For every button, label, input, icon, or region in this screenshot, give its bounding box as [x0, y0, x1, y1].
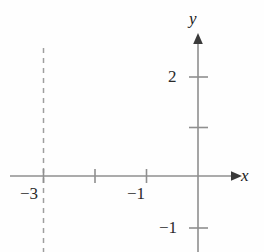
y-axis-arrow-icon	[193, 33, 203, 44]
x-axis-label: x	[241, 167, 249, 184]
plot-canvas	[0, 0, 264, 252]
y-tick-label--1: −1	[159, 219, 177, 236]
y-tick-label-2: 2	[168, 68, 177, 85]
y-axis-label: y	[189, 10, 197, 27]
x-tick-label--3: −3	[20, 185, 38, 202]
graph-figure: y x 2 −1 −3 −1	[0, 0, 264, 252]
x-tick-label--1: −1	[127, 185, 145, 202]
